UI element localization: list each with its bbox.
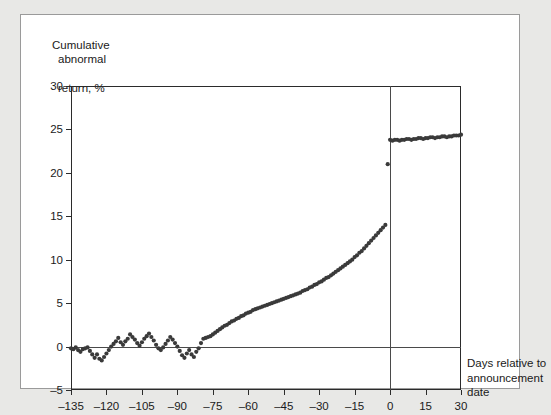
data-point — [192, 355, 196, 359]
x-axis-tick — [355, 390, 356, 395]
data-point — [154, 343, 158, 347]
x-axis-tick — [461, 390, 462, 395]
x-axis-tick — [106, 390, 107, 395]
data-point — [107, 348, 111, 352]
x-axis-caption-line-1: Days relative to — [467, 356, 551, 371]
x-axis-tick — [284, 390, 285, 395]
data-points-layer — [71, 86, 461, 390]
data-point — [85, 345, 89, 349]
data-point — [171, 338, 175, 342]
x-axis-tick-label: –105 — [129, 400, 155, 412]
data-point — [163, 342, 167, 346]
x-axis-tick-label: 30 — [455, 400, 468, 412]
data-point — [197, 346, 201, 350]
x-axis-tick — [319, 390, 320, 395]
x-axis-tick — [71, 390, 72, 395]
data-point — [116, 336, 120, 340]
data-point — [173, 341, 177, 345]
x-axis-tick — [248, 390, 249, 395]
figure-panel: Cumulative abnormal return, % Days relat… — [20, 14, 520, 389]
x-axis-tick-label: –15 — [345, 400, 364, 412]
data-point — [121, 343, 125, 347]
data-point — [126, 337, 130, 341]
y-axis-tick-label: 30 — [50, 80, 63, 92]
data-point — [133, 338, 137, 342]
data-point — [175, 344, 179, 348]
y-axis-caption-line-2: abnormal — [58, 52, 110, 67]
y-axis-tick-label: 15 — [50, 210, 63, 222]
y-axis-tick-label: 20 — [50, 167, 63, 179]
data-point — [88, 349, 92, 353]
x-axis-tick-label: –45 — [274, 400, 293, 412]
x-axis-caption: Days relative to announcement date — [467, 356, 551, 400]
data-point — [137, 344, 141, 348]
plot-area: –5051015202530–135–120–105–90–75–60–45–3… — [71, 86, 461, 390]
data-point — [149, 335, 153, 339]
y-axis-caption-line-1: Cumulative — [52, 39, 110, 51]
x-axis-caption-line-2: announcement — [467, 371, 551, 386]
x-axis-tick-label: –135 — [58, 400, 84, 412]
data-point — [194, 350, 198, 354]
x-axis-tick — [177, 390, 178, 395]
x-axis-tick-label: –60 — [239, 400, 258, 412]
x-axis-tick-label: –90 — [168, 400, 187, 412]
y-axis-tick-label: 0 — [57, 341, 63, 353]
data-point — [104, 351, 108, 355]
data-point — [166, 338, 170, 342]
x-axis-tick — [142, 390, 143, 395]
x-axis-tick — [390, 390, 391, 395]
data-point — [187, 348, 191, 352]
x-axis-tick-label: 0 — [387, 400, 393, 412]
data-point — [102, 355, 106, 359]
x-axis-tick-label: 15 — [419, 400, 432, 412]
y-axis-tick-label: 10 — [50, 254, 63, 266]
x-axis-tick — [213, 390, 214, 395]
data-point — [185, 351, 189, 355]
data-point — [182, 356, 186, 360]
data-point — [93, 356, 97, 360]
data-point — [90, 352, 94, 356]
data-point — [459, 133, 463, 137]
data-point — [386, 162, 390, 166]
data-point — [147, 331, 151, 335]
x-axis-tick — [426, 390, 427, 395]
data-point — [95, 352, 99, 356]
x-axis-tick-label: –120 — [94, 400, 120, 412]
x-axis-tick-label: –30 — [310, 400, 329, 412]
y-axis-tick-label: 25 — [50, 123, 63, 135]
data-point — [199, 341, 203, 345]
y-axis-tick-label: 5 — [57, 297, 63, 309]
data-point — [383, 223, 387, 227]
y-axis-tick-label: –5 — [50, 384, 63, 396]
x-axis-tick-label: –75 — [203, 400, 222, 412]
data-point — [178, 349, 182, 353]
data-point — [140, 340, 144, 344]
x-axis-caption-line-3: date — [467, 385, 551, 400]
data-point — [161, 345, 165, 349]
data-point — [100, 358, 104, 362]
data-point — [152, 338, 156, 342]
data-point — [114, 339, 118, 343]
